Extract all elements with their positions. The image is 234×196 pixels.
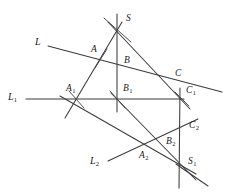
- point-label-B: B: [124, 56, 130, 66]
- point-label-B1-subscript: 1: [129, 87, 132, 94]
- point-label-B2-subscript: 2: [172, 140, 175, 147]
- point-label-B2: B2: [166, 137, 175, 147]
- line-L2-through-A2-B2-C2: [108, 119, 198, 161]
- point-label-B1: B1: [123, 84, 132, 94]
- point-label-A: A: [91, 45, 97, 55]
- line-label-L1-subscript: 1: [14, 96, 17, 103]
- ray-A1-A2-S1: [60, 96, 196, 174]
- diagram-canvas: [0, 0, 234, 196]
- point-label-A2: A2: [139, 151, 148, 161]
- point-label-S: S: [126, 14, 131, 24]
- line-label-L2-base: L: [90, 155, 96, 166]
- point-label-C1-base: C: [186, 85, 193, 95]
- point-label-C: C: [175, 69, 182, 79]
- point-label-S1: S1: [188, 157, 196, 167]
- point-label-A2-subscript: 2: [145, 154, 148, 161]
- point-label-C2: C2: [189, 121, 199, 131]
- geometry-figure: SABCA1B1C1C2B2A2S1 LL1L2: [0, 0, 234, 196]
- point-label-C1: C1: [186, 86, 196, 96]
- point-label-C-base: C: [175, 68, 182, 78]
- point-label-S1-subscript: 1: [193, 160, 196, 167]
- ray-S1-lower-right-tail: [176, 164, 208, 186]
- point-label-C2-base: C: [189, 120, 196, 130]
- point-label-S-base: S: [126, 13, 131, 23]
- point-label-B-base: B: [124, 55, 130, 65]
- point-label-A-base: A: [91, 44, 97, 54]
- point-label-C2-subscript: 2: [196, 124, 199, 131]
- ray-C1-C2-S1-extended: [179, 88, 180, 188]
- line-label-L1-base: L: [8, 91, 14, 102]
- line-label-L2: L2: [90, 156, 99, 166]
- point-label-A1: A1: [66, 84, 75, 94]
- point-label-A1-subscript: 1: [72, 87, 75, 94]
- point-label-C1-subscript: 1: [193, 89, 196, 96]
- line-label-L1: L1: [8, 92, 17, 102]
- line-label-L: L: [35, 37, 41, 47]
- line-label-L-base: L: [35, 36, 41, 47]
- line-label-L2-subscript: 2: [96, 160, 99, 167]
